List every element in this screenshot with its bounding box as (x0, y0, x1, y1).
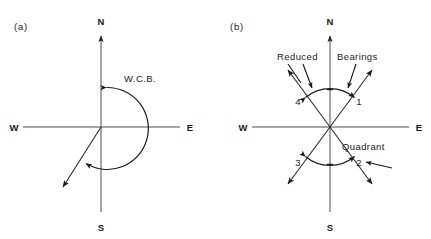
figure-root: (a) N S E W W.C.B. (b) (0, 0, 431, 239)
panel-a-tag: (a) (14, 21, 28, 32)
panel-b-quadrant-number-1: 1 (356, 96, 361, 107)
panel-b: (b) N S E W 1 2 3 4 (230, 16, 422, 233)
panel-b-ray-quadrant-2 (330, 127, 372, 184)
panel-a-north-label: N (97, 16, 104, 27)
panel-a-wcb-arc (86, 87, 148, 169)
panel-b-west-label: W (238, 122, 247, 133)
panel-b-tag: (b) (230, 21, 244, 32)
panel-a-east-label: E (187, 122, 194, 133)
panel-b-quadrant-leader (366, 162, 392, 168)
bearings-diagram: (a) N S E W W.C.B. (b) (0, 0, 431, 239)
panel-a-survey-line (63, 127, 101, 187)
panel-b-east-label: E (416, 122, 423, 133)
panel-b-reduced-label: Reduced (277, 51, 318, 62)
panel-b-bearings-label: Bearings (337, 51, 378, 62)
panel-b-reduced-leader (303, 64, 312, 88)
panel-b-bearings-leader (348, 64, 356, 88)
panel-b-south-label: S (327, 222, 334, 233)
panel-b-quadrant-number-2: 2 (356, 157, 361, 168)
panel-b-quadrant-number-4: 4 (295, 96, 300, 107)
panel-a-west-label: W (9, 122, 18, 133)
panel-b-ray-quadrant-3 (288, 127, 330, 184)
panel-b-quadrant-number-3: 3 (295, 157, 300, 168)
panel-b-quadrant-label: Quadrant (342, 141, 385, 152)
panel-a-south-label: S (98, 222, 105, 233)
panel-a: (a) N S E W W.C.B. (9, 16, 193, 233)
panel-b-north-label: N (326, 16, 333, 27)
panel-a-wcb-label: W.C.B. (124, 73, 156, 84)
